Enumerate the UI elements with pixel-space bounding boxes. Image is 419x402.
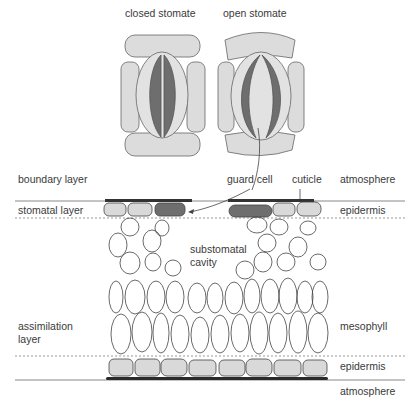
assimilation-layer-label-2: layer: [18, 333, 41, 345]
cuticle-label: cuticle: [292, 173, 322, 185]
guard-cell-label: guard cell: [227, 173, 273, 185]
closed-stomate-label: closed stomate: [125, 7, 196, 19]
cavity-label: cavity: [190, 256, 218, 268]
atmosphere-bottom-label: atmosphere: [340, 385, 396, 397]
lower-epidermis: [109, 359, 327, 376]
palisade-mesophyll-cells: [109, 278, 328, 354]
cuticle-top-right: [228, 199, 314, 202]
open-stomate-label: open stomate: [223, 7, 287, 19]
epidermis-bottom-label: epidermis: [340, 360, 386, 372]
cuticle-bottom: [106, 377, 328, 380]
epidermis-top-label: epidermis: [340, 204, 386, 216]
open-stomate-figure: [218, 33, 304, 191]
mesophyll-label: mesophyll: [340, 320, 387, 332]
cuticle-top-left: [105, 199, 192, 202]
upper-epidermis: [104, 202, 321, 217]
substomatal-label: substomatal: [190, 243, 247, 255]
assimilation-layer-label-1: assimilation: [18, 320, 73, 332]
atmosphere-top-label: atmosphere: [340, 173, 396, 185]
leaf-cross-section-diagram: closed stomate open stomate boundary lay…: [0, 0, 419, 402]
stomatal-layer-label: stomatal layer: [18, 204, 84, 216]
boundary-layer-label: boundary layer: [18, 173, 88, 185]
closed-stomate-figure: [121, 35, 205, 156]
